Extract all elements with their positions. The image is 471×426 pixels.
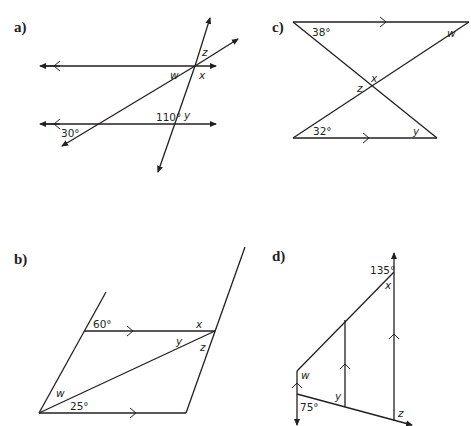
variable-y: y (334, 390, 342, 402)
side-right (186, 247, 245, 413)
variable-w: w (56, 387, 65, 399)
transversal-2 (293, 22, 469, 138)
angle-label: 32° (313, 125, 332, 137)
variable-x: x (195, 318, 203, 330)
variable-z: z (397, 407, 404, 419)
angle-diagrams-figure: a) 30° 110° w x y z c) 38° 32° w x y (0, 0, 471, 426)
diagram-d: d) 135° 75° w x y z (272, 248, 412, 425)
diagram-a: a) 30° 110° w x y z (14, 18, 238, 172)
variable-x: x (370, 72, 378, 84)
diagram-a-label: a) (14, 19, 27, 36)
angle-label: 110° (156, 111, 181, 123)
diagram-b-label: b) (14, 251, 27, 268)
angle-label: 60° (93, 318, 112, 330)
variable-z: z (199, 341, 206, 353)
diagram-c-label: c) (272, 19, 284, 36)
variable-w: w (447, 27, 456, 39)
angle-label: 135° (370, 264, 395, 276)
variable-z: z (201, 46, 208, 58)
angle-label: 30° (61, 127, 80, 139)
side-left (39, 292, 106, 413)
angle-label: 75° (300, 401, 319, 413)
diagram-c: c) 38° 32° w x y z (272, 17, 469, 143)
angle-label: 25° (70, 400, 89, 412)
variable-w: w (301, 369, 310, 381)
variable-y: y (412, 125, 420, 137)
variable-x: x (384, 279, 392, 291)
variable-y: y (175, 335, 183, 347)
diagonal (39, 331, 215, 413)
variable-y: y (183, 109, 191, 121)
diagram-d-label: d) (272, 248, 285, 265)
diagram-b: b) 60° 25° w x y z (14, 247, 245, 418)
variable-w: w (170, 69, 179, 81)
angle-label: 38° (312, 26, 331, 38)
transversal-steep (195, 18, 210, 66)
variable-x: x (198, 69, 206, 81)
variable-z: z (356, 82, 363, 94)
transversal-1 (293, 22, 437, 138)
